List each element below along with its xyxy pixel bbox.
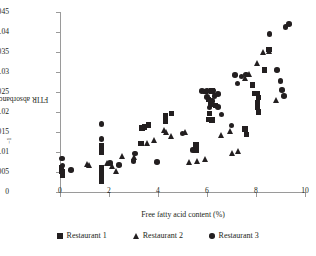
x-tick-label: 6 [192,187,222,195]
data-point [274,67,280,73]
data-point [99,143,104,148]
data-point [286,21,292,27]
y-tick-label: 0 [0,188,9,196]
data-point [212,93,218,99]
data-point [242,126,247,131]
data-point [229,123,235,129]
data-point [229,150,235,156]
data-point [256,109,261,114]
chart-legend: Restaurant 1Restaurant 2Restaurant 3 [0,232,316,240]
y-tick-label: 0.035 [0,48,9,56]
data-point [99,179,104,184]
data-point [169,111,174,116]
data-point [235,81,241,87]
data-point [266,48,272,54]
x-tick-label: 8 [241,187,271,195]
legend-item[interactable]: Restaurant 3 [209,232,259,240]
y-tick-label: 0.025 [0,88,9,96]
x-tick-label: 10 [290,187,316,195]
data-point [218,132,224,138]
legend-item-label: Restaurant 3 [219,232,259,240]
data-point [243,72,249,78]
data-point [186,159,192,165]
data-point [86,162,92,168]
legend-item[interactable]: Restaurant 2 [133,232,183,240]
data-point [244,132,249,137]
data-point [207,111,212,116]
data-point [279,87,285,93]
data-point [163,118,168,123]
data-point [154,159,160,165]
data-point [107,160,113,166]
data-point [194,158,200,164]
data-point [254,60,260,66]
y-tick-label: 0.03 [0,68,9,76]
x-axis-title: Free fatty acid content (%) [60,211,306,219]
y-tick-mark [56,152,60,153]
data-point [227,128,233,134]
x-tick-label: 2 [94,187,124,195]
data-point [190,147,196,153]
y-tick-label: 0.02 [0,108,9,116]
y-tick-label: 0.01 [0,148,9,156]
data-point [235,148,241,154]
legend-item[interactable]: Restaurant 1 [57,232,107,240]
data-point [207,105,213,111]
y-tick-label: 0.015 [0,128,9,136]
x-tick-label: 0 [45,187,75,195]
data-point [273,97,279,103]
data-point [59,156,65,162]
data-point [209,98,215,104]
scatter-chart-figure: FTIR absorbance at 3300 cm−1 00.0050.010… [0,0,316,256]
y-tick-label: 0.04 [0,28,9,36]
data-point [278,78,284,84]
data-point [68,167,74,173]
data-point [116,162,122,168]
data-point [151,137,157,143]
data-point [144,140,150,146]
data-point [281,93,287,99]
y-tick-mark [56,32,60,33]
y-tick-mark [56,132,60,133]
data-point [132,151,138,157]
data-point [232,72,238,78]
data-point [168,133,174,139]
square-marker-icon [57,233,62,238]
y-tick-mark [56,92,60,93]
data-point [215,104,221,110]
y-tick-mark [56,112,60,113]
data-point [131,158,137,164]
data-point [202,156,208,162]
triangle-marker-icon [133,233,139,239]
y-tick-label: 0.005 [0,168,9,176]
data-point [99,149,104,154]
y-axis-title-exponent: −1 [5,138,11,144]
data-point [250,82,255,87]
circle-marker-icon [209,233,215,239]
plot-area [60,12,305,192]
y-axis-title-text: FTIR absorbance at 3300 cm [0,96,48,104]
y-tick-mark [56,52,60,53]
data-point [180,131,186,137]
data-point [219,112,225,118]
data-point [146,122,151,127]
data-point [262,67,267,72]
data-point [260,49,266,55]
data-point [60,173,65,178]
x-tick-label: 4 [143,187,173,195]
data-point [99,121,105,127]
data-point [267,31,273,37]
y-tick-label: 0.045 [0,8,9,16]
legend-item-label: Restaurant 1 [67,232,107,240]
y-tick-mark [56,72,60,73]
data-point [99,136,105,142]
data-point [119,153,125,159]
y-tick-mark [56,12,60,13]
data-point [113,168,119,174]
data-point [209,117,214,122]
data-point [204,88,210,94]
legend-item-label: Restaurant 2 [143,232,183,240]
